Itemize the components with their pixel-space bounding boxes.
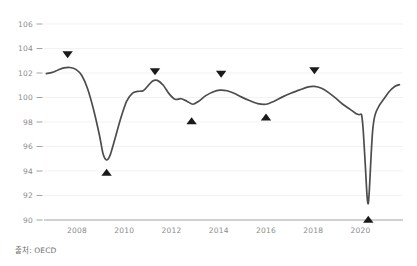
marker-up-triangle-icon	[186, 117, 196, 124]
x-tick-label: 2012	[162, 226, 182, 235]
marker-up-triangle-icon	[101, 169, 111, 176]
x-tick-label: 2020	[351, 226, 371, 235]
marker-down-triangle-icon	[216, 71, 226, 78]
x-tick-label: 2014	[209, 226, 229, 235]
y-tick-label: 102	[18, 69, 33, 78]
y-tick-label: 96	[23, 142, 33, 151]
y-tick-label: 98	[23, 118, 33, 127]
y-tick-label: 104	[18, 44, 33, 53]
line-chart: 9092949698100102104106 20082010201220142…	[0, 0, 417, 266]
gridlines	[44, 24, 403, 196]
y-tick-label: 90	[23, 216, 33, 225]
x-tick-label: 2008	[67, 226, 87, 235]
x-tick-label: 2016	[256, 226, 276, 235]
marker-up-triangle-icon	[261, 114, 271, 121]
turning-point-markers	[62, 51, 373, 223]
y-tick-label: 92	[23, 191, 33, 200]
series-line	[46, 67, 399, 203]
marker-down-triangle-icon	[150, 68, 160, 75]
marker-down-triangle-icon	[62, 51, 72, 58]
y-tick-label: 100	[18, 93, 33, 102]
y-tick-label: 106	[18, 20, 33, 29]
x-tick-label: 2010	[114, 226, 134, 235]
source-note: 출처: OECD	[15, 244, 56, 255]
x-tick-label: 2018	[303, 226, 323, 235]
y-tick-label: 94	[23, 167, 33, 176]
y-axis-ticks: 9092949698100102104106	[18, 20, 42, 225]
chart-container: 9092949698100102104106 20082010201220142…	[0, 0, 417, 266]
marker-up-triangle-icon	[363, 216, 373, 223]
x-axis-ticks: 2008201020122014201620182020	[67, 226, 370, 235]
data-series	[46, 67, 399, 203]
